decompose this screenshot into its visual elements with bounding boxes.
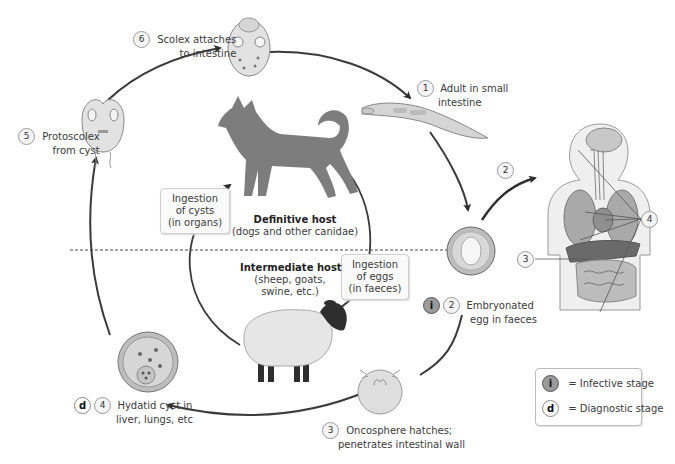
- arrow-2-to-human: [482, 178, 535, 220]
- oncosphere-illustration: [358, 370, 402, 414]
- stage-4-number: 4: [94, 397, 111, 414]
- embryonated-egg-illustration: [447, 227, 495, 275]
- stage-6-number: 6: [133, 31, 150, 48]
- arrow-6-to-1: [270, 52, 410, 98]
- sheep-illustration: [244, 300, 347, 382]
- stage-1-label: 1 Adult in small intestine: [417, 80, 508, 109]
- arrow-4-to-5: [90, 158, 110, 335]
- dog-illustration: [218, 96, 358, 198]
- legend: i = Infective stage d = Diagnostic stage: [535, 368, 642, 426]
- stage-3-number: 3: [322, 422, 339, 439]
- definitive-host-title: Definitive host: [228, 214, 362, 226]
- human-marker-3: 3: [517, 251, 534, 268]
- ingestion-cysts-box: Ingestion of cysts (in organs): [160, 188, 230, 234]
- stage-5-number: 5: [18, 128, 35, 145]
- arrow-3-to-4: [168, 390, 370, 415]
- stage-4-label: d 4 Hydatid cyst in liver, lungs, etc: [74, 397, 193, 426]
- legend-infective: i = Infective stage: [542, 375, 654, 392]
- hydatid-cyst-illustration: [118, 332, 178, 392]
- intermediate-host-label: Intermediate host (sheep, goats, swine, …: [240, 262, 340, 298]
- stage-5-label: 5 Protoscolex from cyst: [18, 128, 100, 157]
- diagnostic-stage-badge: d: [74, 397, 91, 414]
- legend-diagnostic: d = Diagnostic stage: [542, 400, 664, 417]
- human-marker-4: 4: [641, 211, 658, 228]
- arrow-1-to-2: [430, 132, 468, 210]
- ingestion-eggs-box: Ingestion of eggs (in faeces): [341, 254, 409, 300]
- intermediate-host-title: Intermediate host: [240, 262, 340, 274]
- human-figure-illustration: [548, 124, 650, 310]
- definitive-host-subtitle: (dogs and other canidae): [228, 226, 362, 238]
- infective-stage-badge: i: [423, 297, 440, 314]
- stage-1-number: 1: [417, 80, 434, 97]
- legend-diagnostic-icon: d: [542, 400, 559, 417]
- stage-2-number: 2: [443, 297, 460, 314]
- stage-6-label: 6 Scolex attaches to intestine: [133, 31, 236, 60]
- stage-2-label: i 2 Embryonated egg in faeces: [423, 297, 537, 326]
- human-marker-2: 2: [497, 162, 514, 179]
- stage-3-label: 3 Oncosphere hatches; penetrates intesti…: [322, 422, 465, 451]
- legend-infective-icon: i: [542, 375, 559, 392]
- definitive-host-label: Definitive host (dogs and other canidae): [228, 214, 362, 238]
